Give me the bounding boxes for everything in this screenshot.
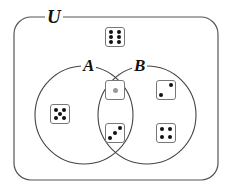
- universe-label: U: [45, 7, 63, 26]
- pip: [117, 40, 121, 44]
- die-six: [105, 27, 125, 47]
- pip: [58, 112, 62, 116]
- pip: [117, 30, 121, 34]
- pip: [54, 116, 58, 120]
- pip: [160, 135, 164, 139]
- pip: [113, 131, 117, 135]
- pip: [109, 40, 113, 44]
- venn-diagram: U A B: [0, 0, 228, 189]
- pip: [168, 135, 172, 139]
- pip: [113, 88, 118, 93]
- pip: [108, 136, 112, 140]
- pip: [109, 35, 113, 39]
- pip: [62, 116, 66, 120]
- pip: [168, 127, 172, 131]
- die-one: [105, 80, 125, 100]
- die-two: [156, 80, 176, 100]
- die-four: [156, 123, 176, 143]
- set-a-label: A: [81, 57, 96, 74]
- pip: [54, 108, 58, 112]
- pip: [159, 93, 163, 97]
- pip: [62, 108, 66, 112]
- die-five: [50, 104, 70, 124]
- pip: [117, 35, 121, 39]
- pip: [160, 127, 164, 131]
- pip: [169, 83, 173, 87]
- pip: [118, 126, 122, 130]
- die-three: [105, 123, 125, 143]
- pip: [109, 30, 113, 34]
- set-b-label: B: [132, 57, 147, 74]
